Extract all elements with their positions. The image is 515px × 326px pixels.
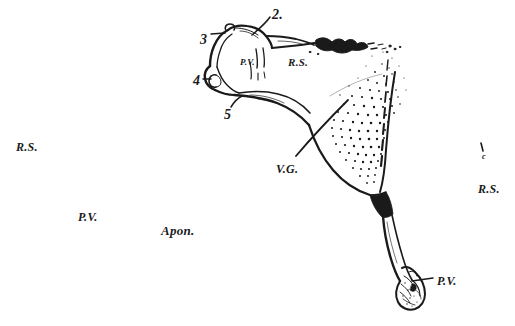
callout-2-label: 2.	[272, 8, 283, 22]
apon-label: Apon.	[161, 224, 195, 237]
vg-label: V.G.	[276, 163, 298, 175]
callout-5-label: 5	[224, 108, 231, 122]
callout-3-label: 3	[200, 33, 207, 47]
muscle-belly-stippled	[309, 51, 407, 195]
rs-bone-label: R.S.	[288, 57, 308, 68]
leader-c	[481, 143, 483, 151]
pv-left-label: P.V.	[78, 211, 97, 223]
c-marker-label: c	[482, 153, 486, 161]
leader-5	[231, 96, 242, 107]
pv-bottom-label: P.V.	[437, 275, 456, 287]
bone-superior-ramus	[266, 36, 320, 48]
distal-insertion-bulb	[396, 267, 425, 309]
callout-4-label: 4	[193, 74, 200, 88]
anatomical-figure: 2. 3 4 5 P.V. R.S. R.S. P.V. Apon. V.G. …	[0, 0, 515, 326]
bone-glenoid-neck	[205, 66, 239, 95]
torn-superior-margin	[309, 38, 400, 55]
leader-vg	[296, 100, 348, 156]
bone-inferior-ramus	[234, 92, 310, 125]
pv-bone-label: P.V.	[240, 58, 255, 67]
rs-right-label: R.S.	[478, 183, 500, 195]
rs-left-label: R.S.	[16, 141, 38, 153]
leader-3	[211, 33, 225, 34]
